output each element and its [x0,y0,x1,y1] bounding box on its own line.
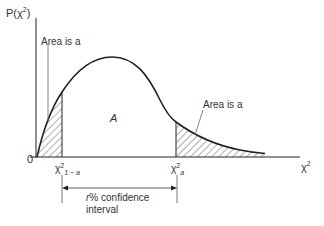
left-area-label: Area is a [41,37,80,47]
y-axis-label: P(χ2) [6,8,30,19]
interval-label-line1: r% confidence [86,193,149,203]
right-area-label: Area is a [203,100,242,110]
chi-squared-diagram [0,0,324,226]
left-tail-area [37,92,62,157]
left-critical-value-label: χ21 − a [55,164,80,174]
right-critical-value-label: χ2a [171,164,184,174]
origin-label: 0 [27,154,33,165]
interval-arrow-left-icon [62,186,68,191]
x-axis-label: χ2 [301,162,311,173]
right-area-leader-line [195,110,203,135]
interval-arrow-right-icon [171,186,177,191]
center-area-label: A [110,113,117,124]
interval-label-line2: interval [86,205,118,215]
